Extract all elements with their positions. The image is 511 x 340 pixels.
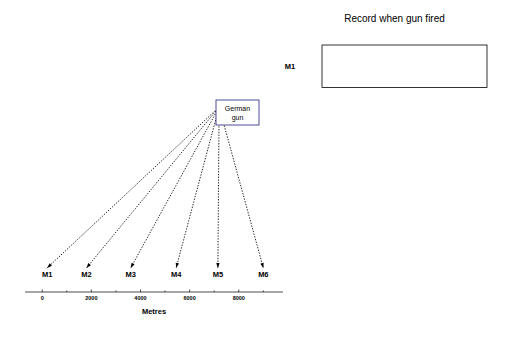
- sound-ray-arrowhead: [176, 263, 179, 268]
- sound-ray-arrowhead: [216, 263, 219, 268]
- microphone-label: M3: [125, 270, 135, 279]
- microphone-layout-diagram: 02000400060008000MetresM1M2M3M4M5M6Germa…: [25, 100, 283, 316]
- microphone-label: M4: [171, 270, 182, 279]
- german-gun-label-line2: gun: [232, 114, 244, 122]
- sound-ray-arrowhead: [131, 263, 135, 268]
- sound-ray: [219, 107, 263, 268]
- microphone-label: M6: [258, 270, 268, 279]
- metres-tick-label: 8000: [233, 295, 245, 301]
- microphone-label: M1: [42, 270, 52, 279]
- figure-root: 02000400060008000MetresM1M2M3M4M5M6Germa…: [0, 0, 511, 340]
- sound-ray: [176, 107, 219, 268]
- sound-ray-arrowhead: [260, 263, 263, 268]
- sound-ray: [86, 107, 219, 268]
- trace-panel-frame: [322, 45, 487, 88]
- sound-record-traces: Record when gun firedM1: [285, 13, 487, 88]
- chart-title: Record when gun fired: [344, 13, 445, 24]
- german-gun-label-line1: German: [225, 105, 250, 112]
- sound-ray: [131, 107, 219, 268]
- figure-canvas: 02000400060008000MetresM1M2M3M4M5M6Germa…: [0, 0, 511, 340]
- trace-panel: M1: [285, 45, 487, 88]
- metres-tick-label: 6000: [184, 295, 196, 301]
- sound-ray: [218, 107, 219, 268]
- microphone-label: M2: [81, 270, 91, 279]
- microphone-label: M5: [213, 270, 223, 279]
- sound-ray-arrowhead: [86, 263, 90, 268]
- metres-tick-label: 0: [41, 295, 44, 301]
- metres-tick-label: 2000: [85, 295, 97, 301]
- trace-row-label: M1: [285, 62, 295, 71]
- sound-ray: [47, 107, 219, 268]
- metres-axis-label: Metres: [142, 307, 166, 316]
- metres-tick-label: 4000: [134, 295, 146, 301]
